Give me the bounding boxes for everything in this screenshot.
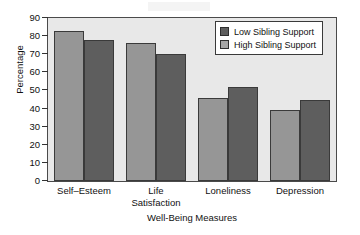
y-tick-mark: [42, 162, 48, 163]
bar: [54, 31, 84, 181]
y-tick-mark: [42, 126, 48, 127]
y-tick-label: 60: [29, 66, 40, 77]
y-tick-label: 30: [29, 121, 40, 132]
legend-swatch-high-sibling-support: [220, 40, 229, 49]
y-tick-mark: [42, 17, 48, 18]
y-tick-label: 10: [29, 157, 40, 168]
legend-item: High Sibling Support: [220, 38, 316, 51]
bar: [270, 110, 300, 181]
y-axis-title: Percentage: [14, 15, 25, 125]
y-tick-label: 70: [29, 48, 40, 59]
x-axis-label: Depression: [255, 185, 345, 197]
y-tick-label: 40: [29, 103, 40, 114]
legend-item: Low Sibling Support: [220, 25, 316, 38]
y-tick-label: 20: [29, 139, 40, 150]
legend-label-low-sibling-support: Low Sibling Support: [234, 27, 314, 37]
y-tick-mark: [42, 35, 48, 36]
legend-label-high-sibling-support: High Sibling Support: [234, 40, 316, 50]
chart-legend: Low Sibling Support High Sibling Support: [215, 21, 323, 55]
bar: [228, 87, 258, 181]
bar: [126, 43, 156, 181]
bar: [198, 98, 228, 181]
y-tick-mark: [42, 71, 48, 72]
scan-artifact: [148, 2, 210, 11]
bar-chart-figure: Percentage 0102030405060708090 Self–Este…: [0, 0, 360, 235]
bar: [300, 100, 330, 182]
y-tick-mark: [42, 180, 48, 181]
y-tick-mark: [42, 108, 48, 109]
y-tick-mark: [42, 53, 48, 54]
x-axis-title: Well-Being Measures: [47, 212, 337, 223]
y-tick-label: 50: [29, 84, 40, 95]
y-tick-mark: [42, 89, 48, 90]
bar: [84, 40, 114, 181]
y-tick-mark: [42, 144, 48, 145]
y-tick-label: 80: [29, 30, 40, 41]
y-tick-label: 90: [29, 12, 40, 23]
bar: [156, 54, 186, 181]
legend-swatch-low-sibling-support: [220, 27, 229, 36]
